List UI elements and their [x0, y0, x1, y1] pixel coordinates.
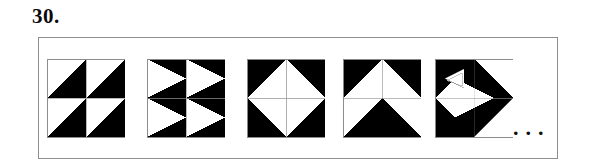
sequence-tile-3	[247, 58, 325, 138]
figure-frame: ...	[38, 37, 558, 159]
rotated-arrow-cluster-figure	[435, 58, 513, 138]
sequence-tile-1	[47, 58, 125, 138]
sequence-continuation-ellipsis: ...	[513, 117, 551, 139]
question-page: 30.	[0, 0, 596, 168]
pinwheel-four-diagonals-figure	[47, 58, 125, 138]
sequence-tile-2	[147, 58, 225, 138]
sequence-tile-4	[343, 58, 421, 138]
sequence-tile-5	[435, 58, 513, 138]
question-number-label: 30.	[32, 6, 60, 27]
four-right-pointing-white-triangles-figure	[147, 58, 225, 138]
white-diamond-on-black-figure	[247, 58, 325, 138]
double-chevron-arrows-up-figure	[343, 58, 421, 138]
